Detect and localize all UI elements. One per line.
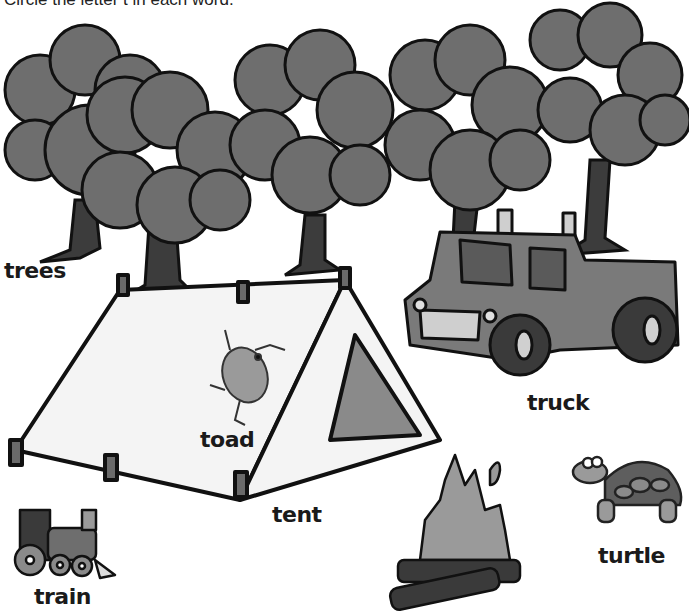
- turtle-picture: [573, 457, 681, 522]
- word-trees: trees: [4, 258, 66, 283]
- word-train: train: [34, 584, 91, 609]
- word-tent: tent: [272, 502, 322, 527]
- truck-picture: [405, 210, 678, 375]
- word-truck: truck: [527, 390, 589, 415]
- campfire-picture: [389, 455, 520, 611]
- trees-picture: [5, 3, 689, 300]
- train-picture: [15, 510, 115, 578]
- word-toad: toad: [200, 427, 254, 452]
- worksheet-illustration: [0, 0, 689, 611]
- word-turtle: turtle: [598, 543, 665, 568]
